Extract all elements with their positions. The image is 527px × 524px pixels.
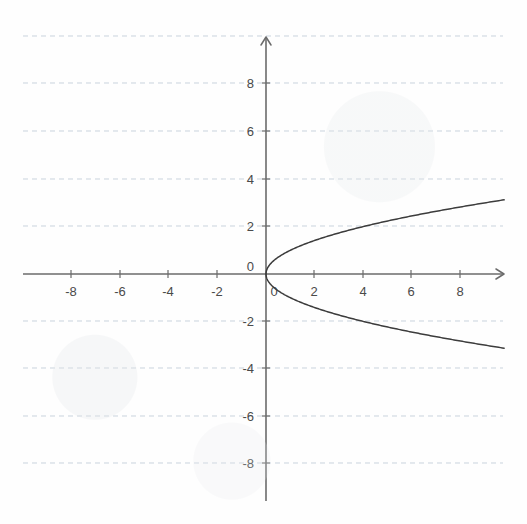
x-axis-tick-labels: -8 -6 -4 -2 0 2 4 6 8 bbox=[65, 284, 463, 299]
ytick-label-pos8: 8 bbox=[247, 76, 254, 91]
xtick-label-neg8: -8 bbox=[65, 284, 77, 299]
ytick-label-pos2: 2 bbox=[247, 219, 254, 234]
ytick-label-neg2: -2 bbox=[242, 314, 254, 329]
xtick-label-pos4: 4 bbox=[359, 284, 366, 299]
curve-upper-branch bbox=[266, 200, 504, 274]
ytick-label-zero: 0 bbox=[247, 259, 254, 274]
xtick-label-neg4: -4 bbox=[162, 284, 174, 299]
xtick-label-pos2: 2 bbox=[310, 284, 317, 299]
ytick-label-pos6: 6 bbox=[247, 124, 254, 139]
ytick-label-neg6: -6 bbox=[242, 409, 254, 424]
graph-page: -8 -6 -4 -2 0 2 4 6 8 8 6 4 2 0 -2 -4 -6… bbox=[0, 0, 527, 524]
curve-lower-branch bbox=[266, 274, 504, 348]
xtick-label-neg2: -2 bbox=[211, 284, 223, 299]
axes bbox=[23, 37, 504, 501]
grid-lines-horizontal bbox=[23, 36, 503, 463]
ytick-label-neg8: -8 bbox=[242, 456, 254, 471]
xtick-label-neg6: -6 bbox=[114, 284, 126, 299]
ytick-label-neg4: -4 bbox=[242, 361, 254, 376]
xtick-label-pos8: 8 bbox=[456, 284, 463, 299]
xtick-label-pos6: 6 bbox=[407, 284, 414, 299]
coordinate-plane-chart: -8 -6 -4 -2 0 2 4 6 8 8 6 4 2 0 -2 -4 -6… bbox=[0, 0, 527, 524]
ytick-label-pos4: 4 bbox=[247, 172, 254, 187]
